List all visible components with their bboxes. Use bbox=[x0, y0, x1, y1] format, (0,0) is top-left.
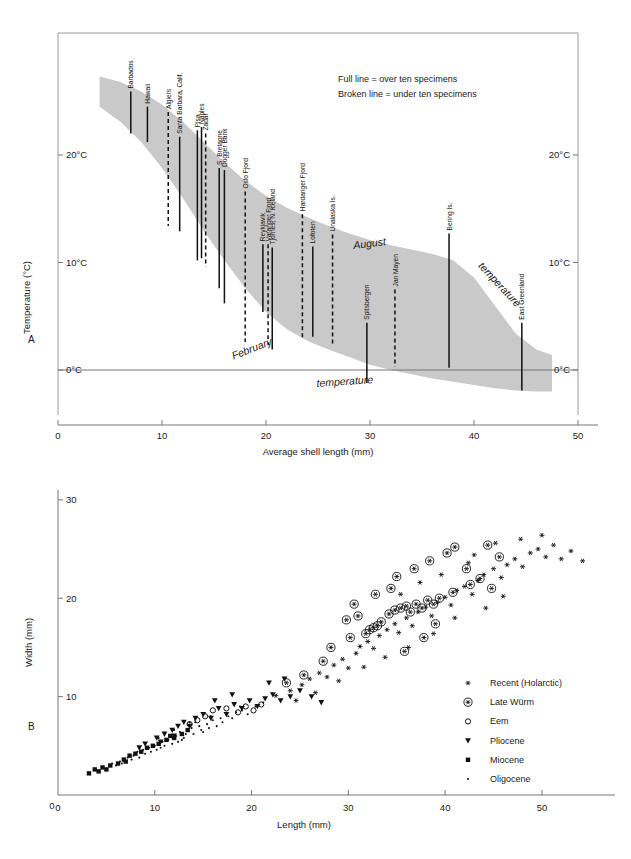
data-point-oligocene bbox=[138, 757, 140, 759]
data-point-pliocene bbox=[231, 702, 237, 707]
data-point-recent-holarctic bbox=[470, 592, 475, 596]
small-dot bbox=[127, 757, 129, 759]
small-dot bbox=[227, 715, 229, 717]
panel-a-y-tick-label-left: 20°C bbox=[66, 149, 87, 160]
legend-marker-open-circle bbox=[465, 719, 470, 724]
data-point-pliocene bbox=[216, 706, 222, 711]
panel-b: 0102030Width (mm)01020304050Length (mm)R… bbox=[23, 490, 615, 830]
legend-label-eem: Eem bbox=[490, 716, 509, 726]
data-point-recent-holarctic bbox=[331, 663, 336, 667]
data-point-recent-holarctic bbox=[340, 657, 345, 661]
filled-triangle bbox=[231, 702, 237, 707]
data-point-recent-holarctic bbox=[512, 557, 517, 561]
data-point-oligocene bbox=[227, 715, 229, 717]
data-point-oligocene bbox=[119, 760, 121, 762]
small-dot bbox=[221, 721, 223, 723]
data-point-pliocene bbox=[181, 720, 187, 725]
data-point-late-w-rm bbox=[391, 606, 399, 614]
data-point-eem bbox=[224, 706, 229, 711]
data-point-miocene bbox=[87, 771, 91, 775]
panel-b-x-tick-label: 10 bbox=[149, 802, 160, 813]
data-point-late-w-rm bbox=[354, 612, 362, 620]
data-point-recent-holarctic bbox=[404, 616, 409, 620]
filled-triangle bbox=[262, 696, 268, 701]
small-dot bbox=[212, 719, 214, 721]
panel-b-y-tick-label: 20 bbox=[66, 593, 77, 604]
data-point-oligocene bbox=[132, 755, 134, 757]
data-point-oligocene bbox=[154, 745, 156, 747]
panel-a-legend-line-2: Broken line = under ten specimens bbox=[338, 89, 477, 99]
filled-triangle bbox=[181, 720, 187, 725]
data-point-oligocene bbox=[262, 701, 264, 703]
site-label-spitsbergen: Spitsbergen bbox=[363, 284, 371, 320]
filled-triangle bbox=[266, 680, 272, 685]
data-point-late-w-rm bbox=[466, 580, 474, 588]
data-point-recent-holarctic bbox=[472, 553, 477, 557]
data-point-late-w-rm bbox=[451, 543, 459, 551]
data-point-late-w-rm bbox=[300, 671, 308, 679]
open-circle bbox=[465, 719, 470, 724]
data-point-late-w-rm bbox=[410, 565, 418, 573]
data-point-pliocene bbox=[212, 698, 218, 703]
small-dot bbox=[194, 721, 196, 723]
small-dot bbox=[254, 705, 256, 707]
data-point-recent-holarctic bbox=[346, 666, 351, 670]
small-dot bbox=[235, 711, 237, 713]
panel-a-x-tick-label: 10 bbox=[157, 430, 168, 441]
site-label-algiers: Algiers bbox=[165, 88, 173, 109]
data-point-oligocene bbox=[231, 717, 233, 719]
data-point-late-w-rm bbox=[406, 608, 414, 616]
data-point-oligocene bbox=[216, 725, 218, 727]
site-label-hardanger-fjord: Hardanger Fjord bbox=[299, 163, 307, 211]
data-point-late-w-rm bbox=[327, 643, 335, 651]
data-point-recent-holarctic bbox=[325, 675, 330, 679]
small-dot bbox=[262, 701, 264, 703]
data-point-oligocene bbox=[210, 715, 212, 717]
filled-square bbox=[87, 771, 91, 775]
small-dot bbox=[247, 713, 249, 715]
small-dot bbox=[192, 733, 194, 735]
panel-a-y-tick-label-right: 0°C bbox=[554, 364, 570, 375]
filled-square bbox=[466, 758, 470, 762]
data-point-oligocene bbox=[127, 757, 129, 759]
data-point-miocene bbox=[168, 734, 172, 738]
data-point-recent-holarctic bbox=[499, 575, 504, 579]
data-point-oligocene bbox=[181, 739, 183, 741]
small-dot bbox=[220, 717, 222, 719]
small-dot bbox=[148, 747, 150, 749]
data-point-recent-holarctic bbox=[568, 549, 573, 553]
panel-b-x-tick-label: 0 bbox=[55, 802, 60, 813]
panel-b-y-tick-label: 10 bbox=[66, 691, 77, 702]
small-dot bbox=[208, 727, 210, 729]
small-dot bbox=[185, 733, 187, 735]
data-point-pliocene bbox=[262, 696, 268, 701]
filled-triangle bbox=[247, 698, 253, 703]
data-point-recent-holarctic bbox=[417, 580, 422, 584]
data-point-oligocene bbox=[144, 753, 146, 755]
data-point-late-w-rm bbox=[435, 594, 443, 602]
filled-square bbox=[96, 769, 100, 773]
small-dot bbox=[154, 745, 156, 747]
legend-label-pliocene: Pliocene bbox=[490, 736, 525, 746]
data-point-pliocene bbox=[287, 694, 293, 699]
panel-a-y-tick-label-right: 10°C bbox=[549, 257, 570, 268]
data-point-pliocene bbox=[318, 700, 324, 705]
panel-b-x-tick-label: 40 bbox=[440, 802, 451, 813]
panel-a-y-tick-label-left: 0°C bbox=[66, 364, 82, 375]
panel-a: 0°C10°C20°C0°C10°C20°CTemperature (°C)01… bbox=[21, 33, 598, 457]
small-dot bbox=[121, 762, 123, 764]
small-dot bbox=[144, 753, 146, 755]
data-point-late-w-rm bbox=[319, 657, 327, 665]
small-dot bbox=[138, 757, 140, 759]
filled-triangle bbox=[175, 724, 181, 729]
panel-a-x-tick-label: 40 bbox=[469, 430, 480, 441]
data-point-oligocene bbox=[111, 762, 113, 764]
data-point-oligocene bbox=[171, 743, 173, 745]
open-circle bbox=[251, 708, 256, 713]
data-point-pliocene bbox=[200, 712, 206, 717]
data-point-miocene bbox=[185, 728, 189, 732]
data-point-miocene bbox=[124, 759, 128, 763]
data-point-recent-holarctic bbox=[294, 698, 299, 702]
data-point-oligocene bbox=[200, 729, 202, 731]
data-point-oligocene bbox=[150, 751, 152, 753]
